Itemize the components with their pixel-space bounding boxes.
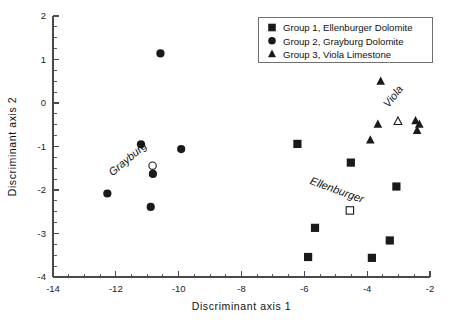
x-tick-label: -12 bbox=[109, 283, 123, 294]
x-tick-label: -10 bbox=[172, 283, 186, 294]
y-tick-label: -1 bbox=[38, 141, 46, 152]
y-tick-label: -2 bbox=[38, 184, 46, 195]
x-axis-ticks: -14-12-10-8-6-4-2 bbox=[46, 271, 434, 294]
data-point-square bbox=[304, 253, 312, 261]
centroids-group: EllenburgerGrayburgViola bbox=[106, 83, 405, 214]
data-point-square bbox=[368, 254, 376, 262]
data-point-square bbox=[386, 236, 394, 244]
y-axis-title: Discriminant axis 2 bbox=[6, 97, 18, 197]
data-point-circle bbox=[149, 170, 157, 178]
data-point-square bbox=[347, 158, 355, 166]
y-axis-ticks: 210-1-2-3-4 bbox=[38, 10, 59, 282]
legend-marker-square bbox=[268, 24, 276, 32]
centroid-marker-ellenburger bbox=[346, 207, 353, 214]
y-tick-label: 2 bbox=[41, 10, 46, 21]
centroid-marker-viola bbox=[394, 117, 402, 125]
x-tick-label: -6 bbox=[300, 283, 308, 294]
data-point-circle bbox=[103, 189, 111, 197]
x-tick-label: -2 bbox=[426, 283, 434, 294]
data-point-square bbox=[392, 182, 400, 190]
legend-marker-circle bbox=[268, 37, 276, 45]
x-tick-label: -4 bbox=[363, 283, 371, 294]
centroid-marker-grayburg bbox=[149, 162, 156, 169]
group-label-viola: Viola bbox=[381, 83, 405, 110]
series-group-1 bbox=[293, 140, 400, 262]
x-tick-label: -14 bbox=[46, 283, 60, 294]
data-point-circle bbox=[156, 49, 164, 57]
data-point-triangle bbox=[366, 135, 375, 143]
legend-label: Group 3, Viola Limestone bbox=[283, 49, 391, 60]
y-tick-label: -4 bbox=[38, 271, 46, 282]
group-label-grayburg: Grayburg bbox=[106, 139, 150, 178]
discriminant-scatter-plot: -14-12-10-8-6-4-2210-1-2-3-4Discriminant… bbox=[0, 0, 450, 324]
data-point-circle bbox=[177, 145, 185, 153]
data-point-triangle bbox=[376, 76, 385, 84]
legend-label: Group 1, Ellenburger Dolomite bbox=[283, 22, 413, 33]
group-label-ellenburger: Ellenburger bbox=[309, 174, 367, 205]
y-tick-label: 1 bbox=[41, 54, 46, 65]
data-point-triangle bbox=[374, 119, 383, 127]
y-tick-label: 0 bbox=[41, 97, 46, 108]
x-tick-label: -8 bbox=[237, 283, 245, 294]
x-axis-title: Discriminant axis 1 bbox=[192, 300, 292, 312]
data-point-square bbox=[311, 224, 319, 232]
scatter-plot-figure: -14-12-10-8-6-4-2210-1-2-3-4Discriminant… bbox=[0, 0, 450, 324]
legend: Group 1, Ellenburger DolomiteGroup 2, Gr… bbox=[258, 17, 432, 62]
series-group-2 bbox=[103, 49, 185, 211]
data-point-circle bbox=[147, 203, 155, 211]
y-tick-label: -3 bbox=[38, 228, 46, 239]
data-point-square bbox=[293, 140, 301, 148]
legend-label: Group 2, Grayburg Dolomite bbox=[283, 36, 404, 47]
